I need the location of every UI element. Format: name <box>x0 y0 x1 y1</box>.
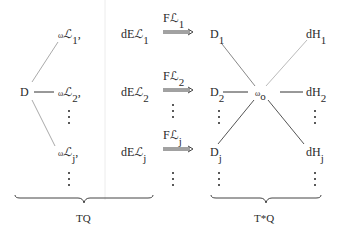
node-D: D <box>20 86 29 98</box>
node-dH2: dH2 <box>306 86 326 98</box>
vertical-ellipsis <box>68 110 71 128</box>
vertical-ellipsis <box>314 110 317 128</box>
arrow-label-FLj: Fℒj <box>163 129 182 141</box>
node-D1: D1 <box>210 28 224 40</box>
arrow-label-FL1: Fℒ1 <box>163 12 184 24</box>
brace-label-TstarQ: T*Q <box>254 212 274 224</box>
vertical-ellipsis <box>218 172 221 190</box>
dE-L2: dEℒ2 <box>121 86 149 98</box>
omega-Lj: ωℒj, <box>58 146 78 160</box>
brace-label-TQ: TQ <box>76 212 91 224</box>
diagram-lines <box>0 0 341 240</box>
arrow-label-FL2: Fℒ2 <box>163 70 184 82</box>
vertical-ellipsis <box>68 172 71 190</box>
vertical-ellipsis <box>218 110 221 128</box>
node-Dj: Dj <box>210 146 222 158</box>
node-dHj: dHj <box>306 146 324 158</box>
omega-L2: ωℒ2, <box>58 86 81 100</box>
node-dH1: dH1 <box>306 28 326 40</box>
vertical-ellipsis <box>172 104 175 122</box>
vertical-ellipsis <box>172 172 175 190</box>
dE-Lj: dEℒj <box>121 146 146 158</box>
node-omega-o: ωo <box>255 86 266 100</box>
omega-L1: ωℒ1, <box>58 28 81 42</box>
node-D2: D2 <box>210 86 224 98</box>
dE-L1: dEℒ1 <box>121 28 149 40</box>
vertical-ellipsis <box>314 172 317 190</box>
